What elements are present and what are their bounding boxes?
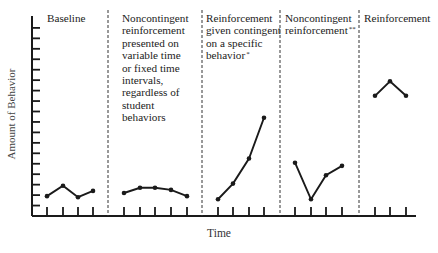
phase-label-line: behavior*	[206, 49, 281, 61]
phase-series	[373, 79, 409, 98]
data-point	[309, 197, 314, 202]
phase-label-line: presented on	[122, 37, 189, 49]
x-axis	[32, 207, 416, 216]
phase-label: Reinforcement	[364, 12, 430, 24]
footnote-marker: **	[349, 25, 356, 33]
phase-label-line: Baseline	[47, 12, 86, 24]
phase-label-line: variable time	[122, 49, 189, 61]
data-point	[185, 194, 190, 199]
phase-series	[45, 183, 96, 199]
data-point	[388, 79, 393, 84]
phase-label: Reinforcementgiven contingenton a specif…	[206, 12, 281, 62]
data-point	[61, 183, 66, 188]
series-line	[47, 186, 93, 197]
data-point	[231, 181, 236, 186]
phase-label-line: given contingent	[206, 24, 281, 36]
phase-label: Noncontingentreinforcement**	[285, 12, 356, 37]
data-point	[293, 160, 298, 165]
phase-label-line: Noncontingent	[285, 12, 356, 24]
y-axis-title: Amount of Behavior	[5, 59, 17, 169]
phase-label-line: reinforcement	[122, 24, 189, 36]
data-point	[122, 191, 127, 196]
data-point	[340, 164, 345, 169]
data-point	[247, 156, 252, 161]
phase-label-line: Noncontingent	[122, 12, 189, 24]
data-point	[138, 185, 143, 190]
phase-label-line: Reinforcement	[206, 12, 281, 24]
phase-label-line: regardless of	[122, 86, 189, 98]
data-point	[153, 185, 158, 190]
phase-series	[293, 160, 345, 201]
phase-series	[216, 115, 267, 201]
data-point	[373, 94, 378, 99]
phase-series	[122, 185, 190, 198]
series-line	[218, 118, 264, 200]
data-point	[216, 197, 221, 202]
data-point	[404, 94, 409, 99]
data-point	[169, 188, 174, 193]
phase-label-line: student	[122, 99, 189, 111]
phase-label-line: reinforcement**	[285, 24, 356, 36]
phase-label-line: Reinforcement	[364, 12, 430, 24]
data-point	[76, 195, 81, 200]
data-point	[262, 115, 267, 120]
data-point	[91, 189, 96, 194]
data-series	[45, 79, 409, 202]
y-axis	[32, 16, 40, 216]
x-axis-title: Time	[0, 227, 438, 239]
footnote-marker: *	[246, 50, 250, 58]
phase-label-line: behaviors	[122, 111, 189, 123]
phase-label-line: or fixed time	[122, 62, 189, 74]
phase-label: Noncontingentreinforcementpresented onva…	[122, 12, 189, 124]
phase-label-line: intervals,	[122, 74, 189, 86]
phase-label-line: on a specific	[206, 37, 281, 49]
series-line	[295, 163, 342, 200]
phase-label: Baseline	[47, 12, 86, 24]
data-point	[45, 194, 50, 199]
data-point	[324, 173, 329, 178]
